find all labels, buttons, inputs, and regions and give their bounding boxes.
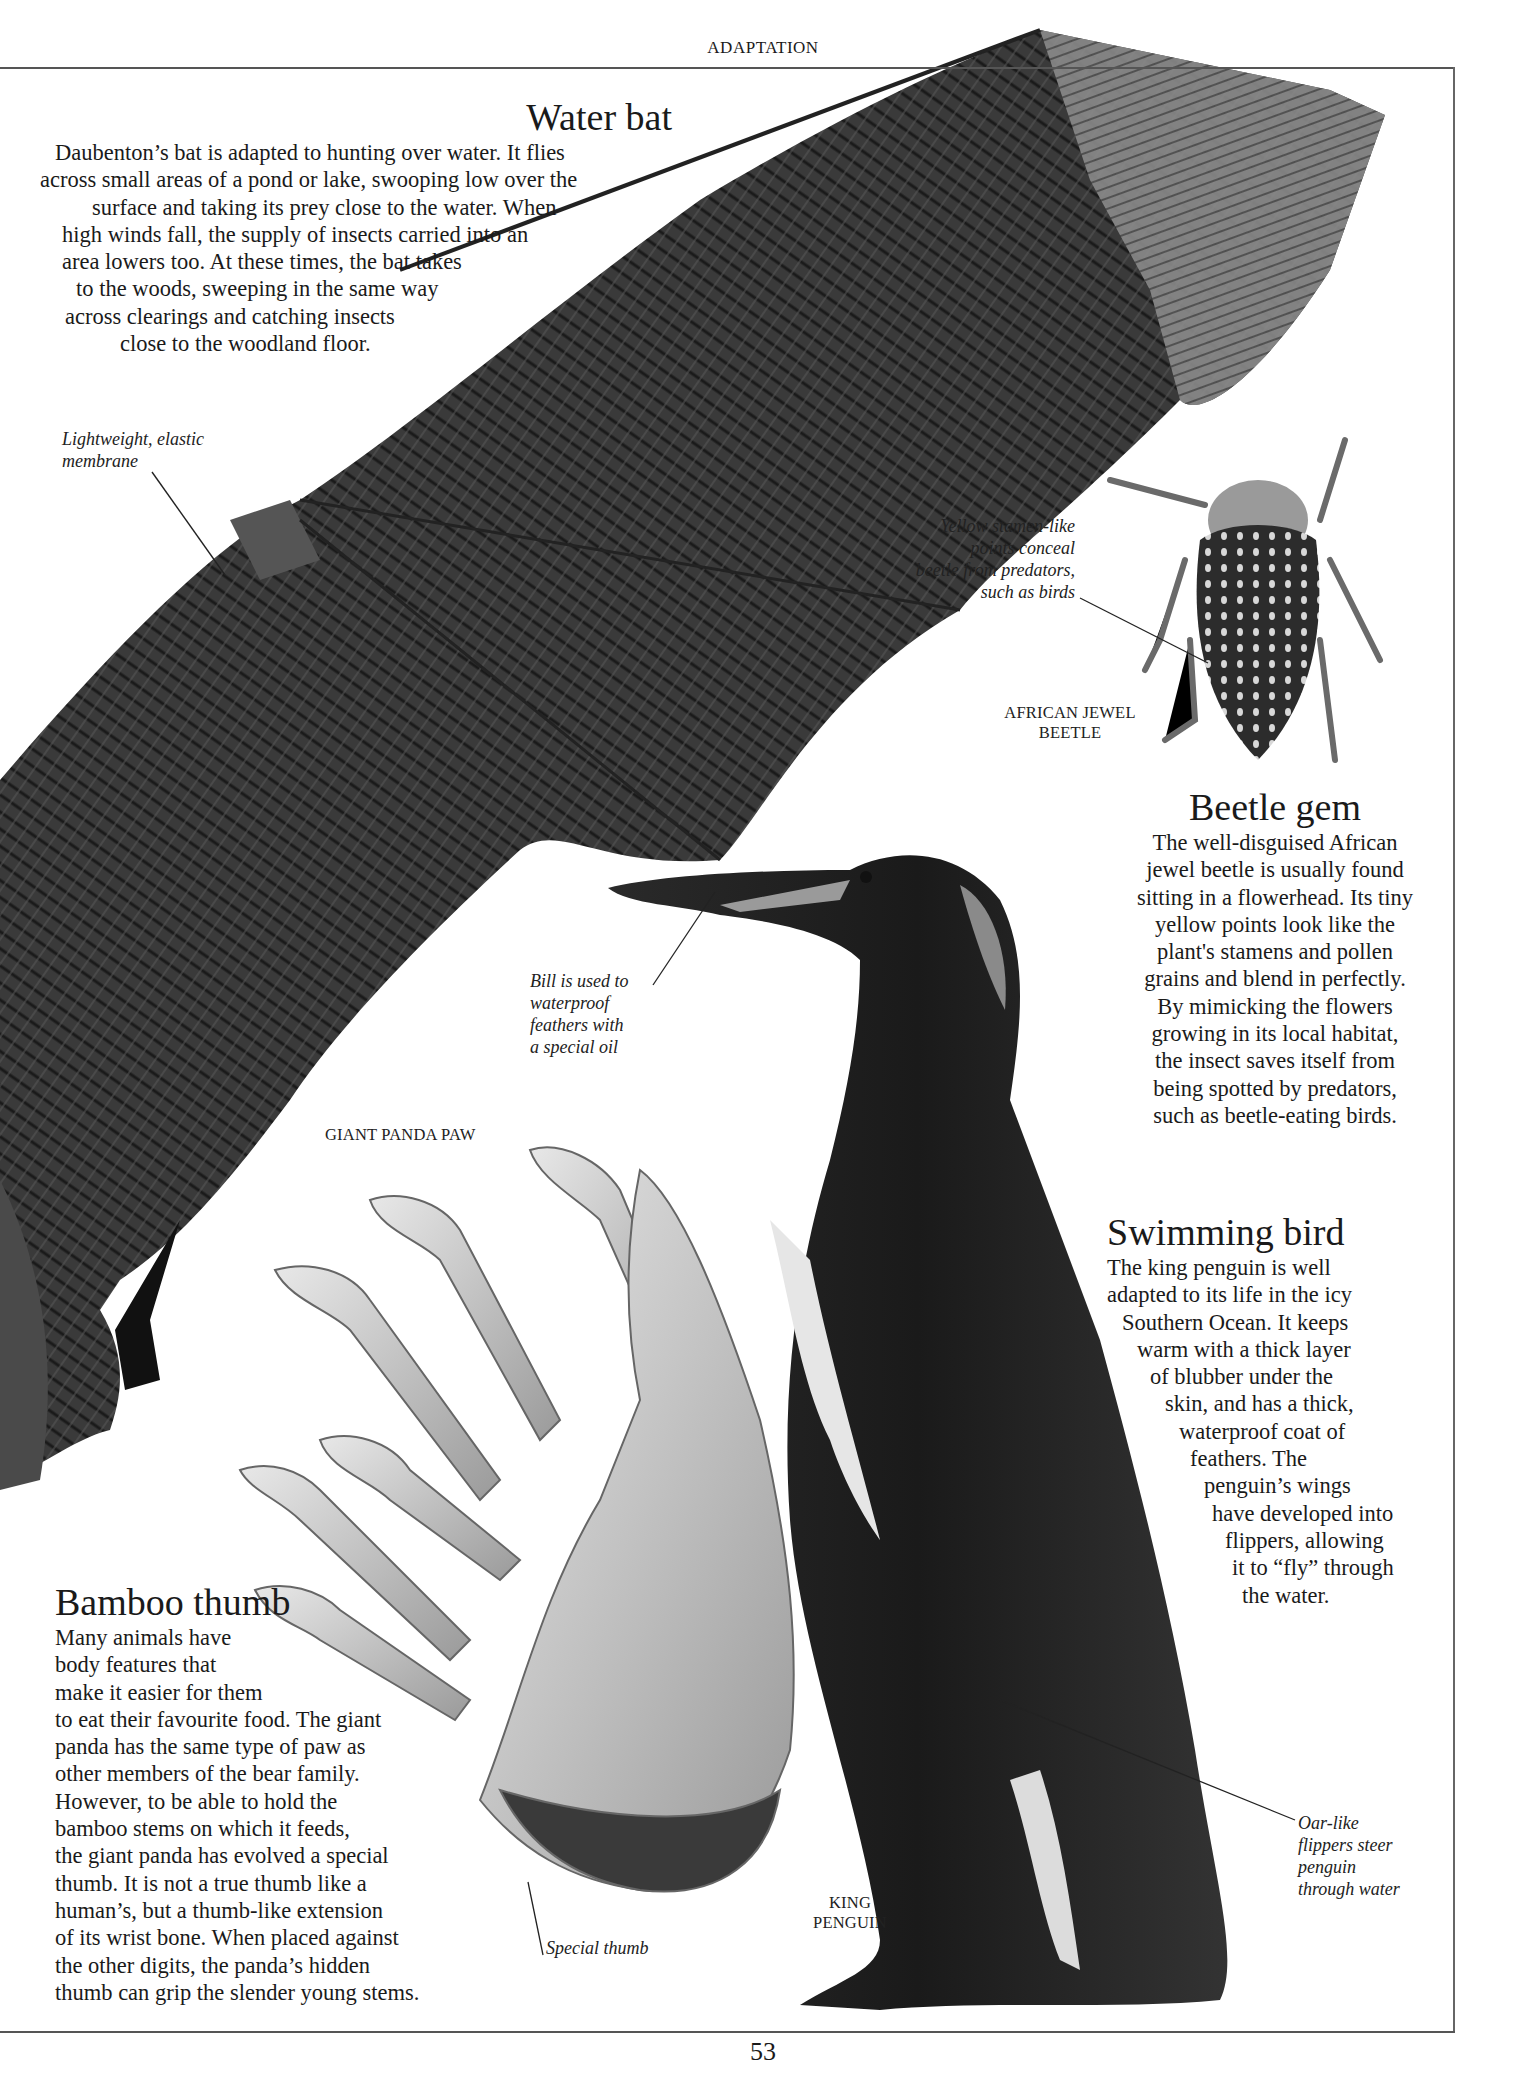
swimming-bird-line: Southern Ocean. It keeps [1107, 1309, 1447, 1336]
swimming-bird-line: waterproof coat of [1107, 1418, 1447, 1445]
beetle-gem-line: grains and blend in perfectly. [1105, 965, 1445, 992]
page-number: 53 [0, 2037, 1526, 2067]
flipper-caption: Oar-like flippers steer penguin through … [1298, 1812, 1400, 1900]
caption-line: Bill is used to [530, 970, 629, 992]
beetle-gem-line: jewel beetle is usually found [1105, 856, 1445, 883]
swimming-bird-line: have developed into [1107, 1500, 1447, 1527]
beetle-gem-line: By mimicking the flowers [1105, 993, 1445, 1020]
beetle-gem-section: Beetle gem The well-disguised African je… [1105, 785, 1445, 1129]
bamboo-thumb-line: make it easier for them [55, 1679, 495, 1706]
water-bat-heading: Water bat [40, 95, 680, 139]
beetle-gem-line: yellow points look like the [1105, 911, 1445, 938]
caption-line: waterproof [530, 992, 629, 1014]
caption-line: penguin [1298, 1856, 1400, 1878]
water-bat-section: Water bat Daubenton’s bat is adapted to … [40, 95, 680, 357]
beetle-leader-line [1080, 598, 1208, 663]
beetle-caption: Yellow stamen-like points conceal beetle… [880, 515, 1075, 603]
swimming-bird-heading: Swimming bird [1107, 1210, 1447, 1254]
caption-line: flippers steer [1298, 1834, 1400, 1856]
bamboo-thumb-line: panda has the same type of paw as [55, 1733, 495, 1760]
water-bat-line: high winds fall, the supply of insects c… [40, 221, 680, 248]
caption-line: membrane [62, 450, 204, 472]
bamboo-thumb-line: Many animals have [55, 1624, 495, 1651]
water-bat-line: across clearings and catching insects [40, 303, 680, 330]
bamboo-thumb-line: the giant panda has evolved a special [55, 1842, 495, 1869]
swimming-bird-line: it to “fly” through [1107, 1554, 1447, 1581]
beetle-gem-heading: Beetle gem [1105, 785, 1445, 829]
beetle-gem-line: The well-disguised African [1105, 829, 1445, 856]
beetle-gem-line: the insect saves itself from [1105, 1047, 1445, 1074]
african-jewel-beetle-image [1110, 440, 1380, 760]
swimming-bird-line: warm with a thick layer [1107, 1336, 1447, 1363]
swimming-bird-section: Swimming bird The king penguin is well a… [1107, 1210, 1447, 1609]
membrane-leader-line [152, 472, 225, 575]
running-head: ADAPTATION [0, 38, 1526, 58]
bamboo-thumb-heading: Bamboo thumb [55, 1580, 495, 1624]
label-line: AFRICAN JEWEL [990, 703, 1150, 723]
frame-right-rule [1453, 67, 1455, 2032]
label-line: PENGUIN [795, 1913, 905, 1933]
swimming-bird-line: of blubber under the [1107, 1363, 1447, 1390]
thumb-leader-line [528, 1882, 543, 1955]
caption-line: Lightweight, elastic [62, 428, 204, 450]
bamboo-thumb-line: the other digits, the panda’s hidden [55, 1952, 495, 1979]
swimming-bird-line: penguin’s wings [1107, 1472, 1447, 1499]
bamboo-thumb-line: of its wrist bone. When placed against [55, 1924, 495, 1951]
bamboo-thumb-line: to eat their favourite food. The giant [55, 1706, 495, 1733]
water-bat-line: across small areas of a pond or lake, sw… [40, 166, 680, 193]
beetle-gem-line: sitting in a flowerhead. Its tiny [1105, 884, 1445, 911]
water-bat-line: surface and taking its prey close to the… [40, 194, 680, 221]
bamboo-thumb-line: However, to be able to hold the [55, 1788, 495, 1815]
caption-line: feathers with [530, 1014, 629, 1036]
frame-top-rule [0, 67, 1455, 69]
water-bat-line: to the woods, sweeping in the same way [40, 275, 680, 302]
water-bat-line: Daubenton’s bat is adapted to hunting ov… [40, 139, 680, 166]
swimming-bird-line: flippers, allowing [1107, 1527, 1447, 1554]
special-thumb-caption: Special thumb [546, 1937, 648, 1959]
caption-line: points conceal [880, 537, 1075, 559]
beetle-gem-line: being spotted by predators, [1105, 1075, 1445, 1102]
beetle-gem-line: growing in its local habitat, [1105, 1020, 1445, 1047]
water-bat-line: area lowers too. At these times, the bat… [40, 248, 680, 275]
caption-line: such as birds [880, 581, 1075, 603]
bamboo-thumb-line: thumb. It is not a true thumb like a [55, 1870, 495, 1897]
beetle-gem-line: plant's stamens and pollen [1105, 938, 1445, 965]
swimming-bird-line: feathers. The [1107, 1445, 1447, 1472]
swimming-bird-line: the water. [1107, 1582, 1447, 1609]
bill-caption: Bill is used to waterproof feathers with… [530, 970, 629, 1058]
bamboo-thumb-section: Bamboo thumb Many animals have body feat… [55, 1580, 495, 2006]
label-line: KING [795, 1893, 905, 1913]
label-line: BEETLE [990, 723, 1150, 743]
caption-line: a special oil [530, 1036, 629, 1058]
swimming-bird-line: adapted to its life in the icy [1107, 1281, 1447, 1308]
king-penguin-label: KING PENGUIN [795, 1893, 905, 1933]
beetle-label: AFRICAN JEWEL BEETLE [990, 703, 1150, 743]
swimming-bird-line: The king penguin is well [1107, 1254, 1447, 1281]
swimming-bird-line: skin, and has a thick, [1107, 1390, 1447, 1417]
water-bat-line: close to the woodland floor. [40, 330, 680, 357]
caption-line: Oar-like [1298, 1812, 1400, 1834]
giant-panda-paw-label: GIANT PANDA PAW [325, 1125, 476, 1145]
frame-bottom-rule [0, 2031, 1455, 2033]
bamboo-thumb-line: other members of the bear family. [55, 1760, 495, 1787]
bamboo-thumb-line: thumb can grip the slender young stems. [55, 1979, 495, 2006]
membrane-caption: Lightweight, elastic membrane [62, 428, 204, 472]
caption-line: beetle from predators, [880, 559, 1075, 581]
bamboo-thumb-line: bamboo stems on which it feeds, [55, 1815, 495, 1842]
bamboo-thumb-line: body features that [55, 1651, 495, 1678]
beetle-gem-line: such as beetle-eating birds. [1105, 1102, 1445, 1129]
caption-line: Yellow stamen-like [880, 515, 1075, 537]
caption-line: through water [1298, 1878, 1400, 1900]
bamboo-thumb-line: human’s, but a thumb-like extension [55, 1897, 495, 1924]
